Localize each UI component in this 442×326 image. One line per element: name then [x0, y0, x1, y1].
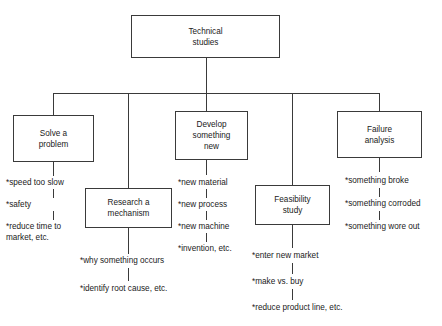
connector-root-trunk	[206, 58, 207, 93]
connector-dash-develop-something-new-2	[206, 211, 207, 220]
connector-dash-solve-a-problem-1	[53, 189, 54, 198]
bullet-develop-something-new-1: *new material	[178, 178, 258, 189]
bullet-research-a-mechanism-2: *identify root cause, etc.	[80, 284, 205, 295]
connector-dash-feasibility-study-2	[292, 289, 293, 300]
bullet-feasibility-study-3: *reduce product line, etc.	[252, 303, 377, 314]
connector-stem-develop-something-new	[206, 160, 207, 175]
connector-stem-feasibility-study	[292, 225, 293, 248]
diagram-canvas: Technical studies Solve a problem Resear…	[0, 0, 442, 326]
connector-drop-solve-a-problem	[53, 93, 54, 115]
connector-drop-feasibility-study	[292, 93, 293, 185]
connector-dash-develop-something-new-1	[206, 189, 207, 198]
node-research-a-mechanism: Research a mechanism	[85, 188, 172, 228]
connector-main-bar	[53, 93, 380, 94]
bullet-feasibility-study-2: *make vs. buy	[252, 277, 357, 288]
connector-stem-solve-a-problem	[53, 162, 54, 176]
bullet-develop-something-new-2: *new process	[178, 200, 258, 211]
bullet-develop-something-new-3: *new machine	[178, 222, 258, 233]
connector-stem-failure-analysis	[379, 158, 380, 172]
bullet-solve-a-problem-2: *safety	[6, 200, 86, 211]
bullet-research-a-mechanism-1: *why something occurs	[80, 256, 200, 267]
connector-dash-failure-analysis-1	[379, 188, 380, 197]
connector-dash-research-a-mechanism-1	[128, 268, 129, 281]
bullet-solve-a-problem-3: *reduce time to market, etc.	[6, 222, 92, 243]
connector-stem-research-a-mechanism	[128, 228, 129, 254]
connector-drop-research-a-mechanism	[128, 93, 129, 188]
connector-drop-failure-analysis	[379, 93, 380, 111]
bullet-failure-analysis-2: *something corroded	[345, 199, 442, 210]
node-develop-something-new: Develop something new	[175, 111, 248, 160]
connector-dash-feasibility-study-1	[292, 263, 293, 274]
connector-dash-solve-a-problem-2	[53, 211, 54, 220]
node-solve-a-problem: Solve a problem	[13, 115, 94, 162]
connector-drop-develop-something-new	[206, 93, 207, 111]
node-feasibility-study: Feasibility study	[255, 185, 330, 225]
node-technical-studies: Technical studies	[131, 15, 280, 58]
bullet-solve-a-problem-1: *speed too slow	[6, 178, 86, 189]
bullet-feasibility-study-1: *enter new market	[252, 251, 357, 262]
bullet-failure-analysis-3: *something wore out	[345, 222, 442, 233]
connector-dash-develop-something-new-3	[206, 233, 207, 242]
node-failure-analysis: Failure analysis	[337, 111, 422, 158]
bullet-develop-something-new-4: *invention, etc.	[178, 244, 263, 255]
connector-dash-failure-analysis-2	[379, 211, 380, 220]
bullet-failure-analysis-1: *something broke	[345, 176, 440, 187]
